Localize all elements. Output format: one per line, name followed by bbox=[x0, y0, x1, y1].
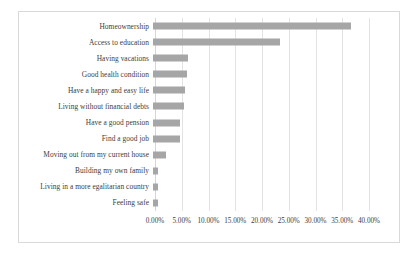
bar-track bbox=[153, 50, 399, 66]
bar[interactable] bbox=[153, 103, 184, 110]
x-axis-tick-labels: 0.00%5.00%10.00%15.00%20.00%25.00%30.00%… bbox=[155, 216, 369, 228]
category-label: Have a happy and easy life bbox=[19, 86, 153, 95]
category-label: Having vacations bbox=[19, 54, 153, 63]
bar-row: Living in a more egalitarian country bbox=[19, 179, 399, 195]
bar[interactable] bbox=[153, 71, 187, 78]
bar-row: Moving out from my current house bbox=[19, 147, 399, 163]
category-label: Access to education bbox=[19, 38, 153, 47]
x-tick-label: 40.00% bbox=[358, 216, 380, 226]
bar[interactable] bbox=[153, 151, 166, 158]
category-label: Find a good job bbox=[19, 134, 153, 143]
bar-row: Find a good job bbox=[19, 131, 399, 147]
bar-track bbox=[153, 114, 399, 130]
bar-row: Access to education bbox=[19, 34, 399, 50]
bar[interactable] bbox=[153, 135, 180, 142]
category-label: Feeling safe bbox=[19, 198, 153, 207]
category-label: Moving out from my current house bbox=[19, 150, 153, 159]
x-tick-label: 15.00% bbox=[224, 216, 246, 226]
bar[interactable] bbox=[153, 119, 180, 126]
x-tick-label: 30.00% bbox=[304, 216, 326, 226]
category-label: Living in a more egalitarian country bbox=[19, 182, 153, 191]
category-label: Have a good pension bbox=[19, 118, 153, 127]
category-label: Building my own family bbox=[19, 166, 153, 175]
bar-track bbox=[153, 179, 399, 195]
bar[interactable] bbox=[153, 55, 188, 62]
x-tick-label: 0.00% bbox=[146, 216, 165, 226]
category-label: Living without financial debts bbox=[19, 102, 153, 111]
bar-row: Building my own family bbox=[19, 163, 399, 179]
x-tick-label: 35.00% bbox=[331, 216, 353, 226]
plot-area: HomeownershipAccess to educationHaving v… bbox=[19, 12, 399, 242]
x-tick-label: 5.00% bbox=[172, 216, 191, 226]
bar-row: Have a good pension bbox=[19, 114, 399, 130]
bar-track bbox=[153, 82, 399, 98]
bar-track bbox=[153, 163, 399, 179]
bar-row: Feeling safe bbox=[19, 195, 399, 211]
bar-rows: HomeownershipAccess to educationHaving v… bbox=[19, 18, 399, 211]
bar-track bbox=[153, 131, 399, 147]
bar-row: Having vacations bbox=[19, 50, 399, 66]
bar[interactable] bbox=[153, 87, 185, 94]
bar-track bbox=[153, 195, 399, 211]
bar[interactable] bbox=[153, 167, 158, 174]
bar[interactable] bbox=[153, 183, 158, 190]
x-tick-label: 10.00% bbox=[197, 216, 219, 226]
category-label: Homeownership bbox=[19, 22, 153, 31]
bar-row: Good health condition bbox=[19, 66, 399, 82]
bar-track bbox=[153, 34, 399, 50]
bar[interactable] bbox=[153, 199, 158, 206]
category-label: Good health condition bbox=[19, 70, 153, 79]
bar-row: Homeownership bbox=[19, 18, 399, 34]
bar-track bbox=[153, 98, 399, 114]
bar-track bbox=[153, 66, 399, 82]
bar[interactable] bbox=[153, 39, 280, 46]
x-tick-label: 20.00% bbox=[251, 216, 273, 226]
bar-track bbox=[153, 147, 399, 163]
x-tick-label: 25.00% bbox=[278, 216, 300, 226]
bar[interactable] bbox=[153, 23, 351, 30]
bar-track bbox=[153, 18, 399, 34]
bar-row: Have a happy and easy life bbox=[19, 82, 399, 98]
bar-row: Living without financial debts bbox=[19, 98, 399, 114]
chart-container: HomeownershipAccess to educationHaving v… bbox=[18, 11, 400, 243]
